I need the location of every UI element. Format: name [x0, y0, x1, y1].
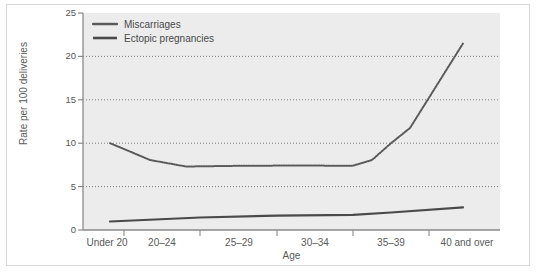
y-tick-label-5: 5: [50, 181, 76, 192]
x-tick-label-20-24: 20–24: [123, 237, 201, 248]
legend-label-miscarriages: Miscarriages: [124, 19, 181, 30]
y-tick-label-25: 25: [50, 7, 76, 18]
y-tick-label-10: 10: [50, 137, 76, 148]
dotted-line-marker-icon: [92, 19, 118, 29]
chart-legend: Miscarriages Ectopic pregnancies: [92, 17, 214, 45]
y-tick-marks: [78, 13, 83, 230]
x-tick-label-25-29: 25–29: [200, 237, 278, 248]
chart-figure: 25 20 15 10 5 0 Rate per 100 deliveries …: [0, 0, 538, 273]
legend-label-ectopic-pregnancies: Ectopic pregnancies: [124, 33, 214, 44]
series-line-ectopic: [110, 207, 463, 221]
series-line-miscarriages: [110, 43, 463, 166]
chart-canvas: [0, 0, 538, 273]
x-tick-label-35-39: 35–39: [352, 237, 430, 248]
solid-line-marker-icon: [92, 33, 118, 43]
legend-item-miscarriages: Miscarriages: [92, 17, 214, 31]
x-tick-label-30-34: 30–34: [276, 237, 354, 248]
y-tick-label-20: 20: [50, 50, 76, 61]
y-tick-label-15: 15: [50, 94, 76, 105]
x-tick-marks: [124, 230, 429, 236]
y-tick-label-0: 0: [50, 224, 76, 235]
x-axis-title: Age: [83, 250, 500, 261]
y-axis-title: Rate per 100 deliveries: [18, 29, 29, 159]
gridlines: [83, 56, 500, 186]
legend-item-ectopic-pregnancies: Ectopic pregnancies: [92, 31, 214, 45]
x-tick-label-40-and-over: 40 and over: [427, 237, 507, 248]
